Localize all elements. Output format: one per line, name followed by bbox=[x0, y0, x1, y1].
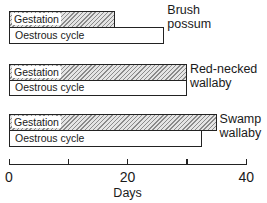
species-label: Brushpossum bbox=[167, 3, 211, 31]
gestation-label: Gestation bbox=[12, 66, 61, 78]
gestation-bar: Gestation bbox=[9, 64, 187, 81]
species-label-line1: Brush bbox=[167, 3, 211, 17]
gestation-bar: Gestation bbox=[9, 11, 115, 28]
oestrous-bar: Oestrous cycle bbox=[9, 27, 164, 44]
gestation-label: Gestation bbox=[12, 13, 61, 25]
tick-label: 20 bbox=[120, 169, 136, 185]
gestation-label: Gestation bbox=[12, 116, 61, 128]
axis-tick bbox=[246, 159, 247, 165]
species-label: Swampwallaby bbox=[220, 112, 262, 140]
oestrous-bar: Oestrous cycle bbox=[9, 79, 187, 96]
axis-tick bbox=[186, 159, 187, 165]
gestation-bar: Gestation bbox=[9, 114, 217, 131]
species-label-line2: wallaby bbox=[190, 76, 257, 90]
axis-title: Days bbox=[113, 186, 141, 200]
axis-tick bbox=[9, 159, 10, 165]
tick-label: 40 bbox=[238, 169, 254, 185]
oestrous-bar: Oestrous cycle bbox=[9, 130, 202, 147]
axis-tick bbox=[127, 159, 128, 165]
species-label: Red-neckedwallaby bbox=[190, 62, 257, 90]
species-label-line1: Red-necked bbox=[190, 62, 257, 76]
tick-label: 0 bbox=[5, 169, 13, 185]
oestrous-label: Oestrous cycle bbox=[13, 81, 86, 93]
species-label-line2: possum bbox=[167, 17, 211, 31]
oestrous-label: Oestrous cycle bbox=[13, 29, 86, 41]
species-label-line2: wallaby bbox=[220, 126, 262, 140]
axis-tick bbox=[68, 159, 69, 165]
oestrous-label: Oestrous cycle bbox=[13, 132, 86, 144]
species-label-line1: Swamp bbox=[220, 112, 262, 126]
